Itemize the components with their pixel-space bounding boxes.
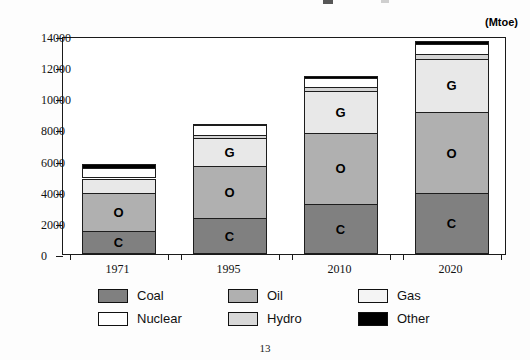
segment-letter-oil: O [446,146,456,161]
legend-item-hydro[interactable]: Hydro [228,311,358,326]
segment-letter-oil: O [224,185,234,200]
segment-letter-gas: G [335,105,345,120]
legend-label-oil: Oil [267,288,283,303]
y-axis-tick-label: 4000 [41,186,52,201]
legend-label-hydro: Hydro [267,311,302,326]
bar-segment-coal[interactable]: C [193,218,267,254]
segment-letter-oil: O [335,161,345,176]
x-axis-label-2020: 2020 [439,262,463,277]
y-axis-tick-label: 12000 [41,62,52,77]
segment-letter-gas: G [446,78,456,93]
legend-item-nuclear[interactable]: Nuclear [98,311,228,326]
x-axis-label-1971: 1971 [106,262,130,277]
bar-segment-hydro[interactable] [82,177,156,179]
bar-segment-gas[interactable] [82,179,156,193]
bar-segment-other[interactable] [304,76,378,78]
bar-segment-nuclear[interactable] [304,78,378,88]
y-axis-tick-label: 14000 [41,31,52,46]
legend-item-oil[interactable]: Oil [228,288,358,303]
y-axis-tick-label: 2000 [41,217,52,232]
y-axis-tick-label: 10000 [41,93,52,108]
plot-inner: 02000400060008000100001200014000COCOGCOG… [63,38,505,254]
bar-segment-nuclear[interactable] [82,168,156,177]
legend-row: NuclearHydroOther [98,311,488,326]
segment-letter-oil: O [113,205,123,220]
legend-label-gas: Gas [397,288,421,303]
x-axis-tick [70,254,71,260]
scan-artifact-top-secondary [381,0,389,3]
x-axis-tick [279,254,280,260]
x-axis-tick [501,254,502,260]
bar-2020[interactable]: COG [415,36,489,254]
segment-letter-coal: C [225,229,234,244]
x-axis-label-1995: 1995 [217,262,241,277]
chart-page: (Mtoe) 02000400060008000100001200014000C… [0,0,530,360]
chart-legend: CoalOilGasNuclearHydroOther [98,288,488,334]
bar-segment-hydro[interactable] [304,87,378,91]
bar-segment-hydro[interactable] [193,135,267,138]
x-axis-tick [403,254,404,260]
bar-segment-other[interactable] [415,41,489,45]
bar-segment-other[interactable] [82,164,156,167]
bar-segment-nuclear[interactable] [415,44,489,54]
page-number: 13 [0,342,530,354]
legend-swatch-other [358,312,388,326]
bar-2010[interactable]: COG [304,36,378,254]
segment-letter-coal: C [447,216,456,231]
bar-segment-other[interactable] [193,124,267,125]
y-axis-units-label: (Mtoe) [485,16,518,28]
bar-segment-oil[interactable]: O [415,112,489,193]
y-axis-tick [56,256,63,257]
legend-swatch-gas [358,289,388,303]
bar-segment-nuclear[interactable] [193,125,267,135]
bar-segment-coal[interactable]: C [304,204,378,254]
bar-segment-oil[interactable]: O [304,133,378,205]
y-axis-tick-label: 6000 [41,155,52,170]
x-axis-tick [181,254,182,260]
x-axis-label-2010: 2010 [328,262,352,277]
legend-item-coal[interactable]: Coal [98,288,228,303]
legend-label-other: Other [397,311,430,326]
y-axis-tick-label: 0 [41,249,52,264]
segment-letter-coal: C [114,235,123,250]
plot-area: 02000400060008000100001200014000COCOGCOG… [62,37,506,255]
bar-1971[interactable]: CO [82,36,156,254]
scan-artifact-top [323,0,333,4]
legend-label-nuclear: Nuclear [137,311,182,326]
bar-segment-oil[interactable]: O [193,166,267,218]
legend-swatch-coal [98,289,128,303]
bar-segment-coal[interactable]: C [82,231,156,254]
legend-row: CoalOilGas [98,288,488,303]
legend-label-coal: Coal [137,288,164,303]
bar-1995[interactable]: COG [193,36,267,254]
x-axis-tick [292,254,293,260]
bar-segment-hydro[interactable] [415,54,489,59]
bar-segment-gas[interactable]: G [304,91,378,132]
legend-item-gas[interactable]: Gas [358,288,488,303]
segment-letter-gas: G [224,145,234,160]
legend-swatch-hydro [228,312,258,326]
bar-segment-gas[interactable]: G [193,138,267,166]
legend-swatch-nuclear [98,312,128,326]
bar-segment-oil[interactable]: O [82,193,156,232]
y-axis-tick-label: 8000 [41,124,52,139]
legend-swatch-oil [228,289,258,303]
x-axis-tick [390,254,391,260]
bar-segment-coal[interactable]: C [415,193,489,254]
bar-segment-gas[interactable]: G [415,59,489,113]
segment-letter-coal: C [336,222,345,237]
x-axis-tick [168,254,169,260]
legend-item-other[interactable]: Other [358,311,488,326]
